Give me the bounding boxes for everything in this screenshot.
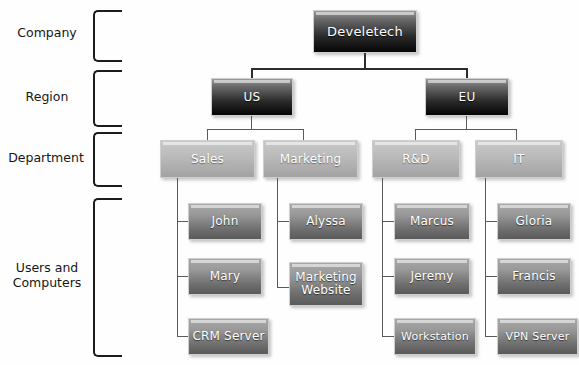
connector-region-bus bbox=[251, 68, 467, 70]
node-region-us[interactable]: US bbox=[211, 78, 293, 116]
node-user-marcus[interactable]: Marcus bbox=[394, 203, 470, 240]
node-label: VPN Server bbox=[506, 330, 570, 343]
tier-label-department: Department bbox=[0, 150, 92, 165]
node-company-develetech[interactable]: Develetech bbox=[313, 10, 417, 53]
box-highlight bbox=[428, 80, 506, 83]
box-highlight bbox=[191, 320, 266, 323]
box-highlight bbox=[191, 260, 259, 263]
connector-marketing-spine bbox=[277, 178, 278, 288]
box-highlight bbox=[500, 260, 568, 263]
node-region-eu[interactable]: EU bbox=[425, 78, 509, 116]
tier-label-users-and-computers: Users and Computers bbox=[4, 260, 90, 290]
node-label: Develetech bbox=[327, 25, 403, 38]
node-user-alyssa[interactable]: Alyssa bbox=[289, 203, 363, 240]
node-label: Francis bbox=[512, 270, 556, 283]
bracket-company bbox=[93, 10, 122, 62]
box-highlight bbox=[316, 12, 414, 15]
node-label: R&D bbox=[402, 153, 430, 166]
node-label: Marcus bbox=[410, 215, 454, 228]
node-label: John bbox=[212, 215, 239, 228]
box-highlight bbox=[214, 80, 290, 83]
box-highlight bbox=[191, 205, 259, 208]
box-highlight bbox=[163, 142, 252, 145]
node-label: Sales bbox=[191, 153, 224, 166]
node-label: CRM Server bbox=[192, 330, 264, 343]
box-highlight bbox=[292, 205, 360, 208]
connector-rnd-leaf-2 bbox=[382, 276, 394, 277]
tier-label-region: Region bbox=[4, 89, 90, 104]
node-user-john[interactable]: John bbox=[188, 203, 262, 240]
node-department-marketing[interactable]: Marketing bbox=[263, 140, 358, 178]
box-highlight bbox=[375, 142, 457, 145]
node-department-rnd[interactable]: R&D bbox=[372, 140, 460, 178]
tier-label-company: Company bbox=[4, 25, 90, 40]
node-user-mary[interactable]: Mary bbox=[188, 258, 262, 295]
connector-sales-spine bbox=[177, 178, 178, 337]
node-user-francis[interactable]: Francis bbox=[497, 258, 571, 295]
node-label: EU bbox=[459, 91, 476, 104]
connector-eu-stem bbox=[466, 116, 467, 129]
node-label: Jeremy bbox=[411, 270, 454, 283]
connector-rnd-leaf-1 bbox=[382, 221, 394, 222]
connector-it-leaf-1 bbox=[485, 221, 497, 222]
node-label: Marketing Website bbox=[295, 271, 357, 297]
node-user-gloria[interactable]: Gloria bbox=[497, 203, 571, 240]
box-highlight bbox=[266, 142, 355, 145]
bracket-region bbox=[93, 70, 122, 127]
connector-us-stem bbox=[251, 116, 252, 129]
connector-it-spine bbox=[485, 178, 486, 337]
connector-marketing-leaf-2 bbox=[277, 287, 289, 288]
node-computer-vpn-server[interactable]: VPN Server bbox=[497, 318, 578, 355]
connector-it-leaf-3 bbox=[485, 336, 497, 337]
connector-us-bus bbox=[207, 129, 304, 130]
box-highlight bbox=[500, 205, 568, 208]
node-label: Alyssa bbox=[306, 215, 346, 228]
box-highlight bbox=[397, 205, 467, 208]
node-computer-marketing-website[interactable]: Marketing Website bbox=[289, 262, 363, 306]
bracket-users-and-computers bbox=[93, 198, 122, 357]
box-highlight bbox=[397, 260, 467, 263]
connector-marketing-leaf-1 bbox=[277, 221, 289, 222]
org-chart-diagram: Company Region Department Users and Comp… bbox=[0, 0, 579, 365]
connector-rnd-leaf-3 bbox=[382, 336, 394, 337]
node-label: Marketing bbox=[280, 153, 342, 166]
bracket-department bbox=[93, 132, 122, 187]
node-label: Workstation bbox=[401, 330, 469, 343]
connector-eu-bus bbox=[415, 129, 517, 130]
node-label: IT bbox=[513, 153, 524, 166]
node-label: Gloria bbox=[516, 215, 553, 228]
node-label: Mary bbox=[210, 270, 241, 283]
connector-it-leaf-2 bbox=[485, 276, 497, 277]
node-user-jeremy[interactable]: Jeremy bbox=[394, 258, 470, 295]
node-computer-workstation[interactable]: Workstation bbox=[394, 318, 476, 355]
box-highlight bbox=[478, 142, 560, 145]
node-department-it[interactable]: IT bbox=[475, 140, 563, 178]
connector-rnd-spine bbox=[382, 178, 383, 337]
node-computer-crm-server[interactable]: CRM Server bbox=[188, 318, 269, 355]
box-highlight bbox=[292, 264, 360, 267]
box-highlight bbox=[397, 320, 473, 323]
box-highlight bbox=[500, 320, 575, 323]
node-department-sales[interactable]: Sales bbox=[160, 140, 255, 178]
connector-company-stem bbox=[364, 53, 366, 69]
node-label: US bbox=[244, 91, 261, 104]
